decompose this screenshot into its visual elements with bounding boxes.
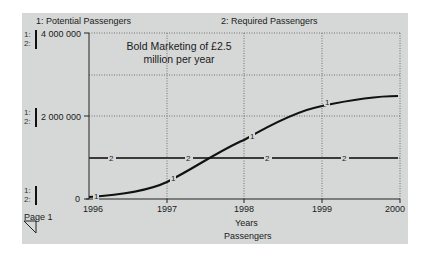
svg-text:1: 1	[325, 98, 330, 107]
svg-text:2: 2	[342, 154, 347, 163]
chart-title: Passengers	[224, 231, 272, 241]
svg-text:2: 2	[265, 154, 270, 163]
svg-text:2: 2	[109, 154, 114, 163]
svg-text:1: 1	[250, 132, 255, 141]
plot-area: 1 1 1 1 2 2 2 2	[0, 0, 425, 257]
x-tick-2000: 2000	[385, 204, 405, 214]
x-axis-label: Years	[235, 218, 258, 228]
x-tick-1996: 1996	[83, 204, 103, 214]
svg-text:1: 1	[94, 192, 99, 201]
svg-text:2: 2	[186, 154, 191, 163]
x-tick-1998: 1998	[234, 204, 254, 214]
x-tick-1997: 1997	[157, 204, 177, 214]
x-tick-1999: 1999	[312, 204, 332, 214]
svg-text:1: 1	[171, 174, 176, 183]
page-corner-icon[interactable]	[24, 221, 36, 233]
page-label[interactable]: Page 1	[24, 212, 53, 222]
series-1-line	[89, 96, 398, 197]
